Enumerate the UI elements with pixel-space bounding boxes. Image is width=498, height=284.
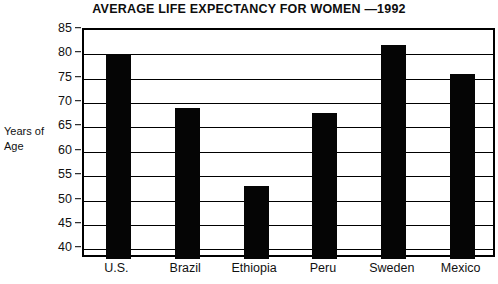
y-axis-tick-mark: [75, 149, 81, 150]
bar-series: [84, 30, 493, 255]
y-axis-tick-label: 60: [58, 144, 72, 157]
x-axis-category-label: Sweden: [369, 261, 414, 275]
y-axis-tick-mark: [75, 198, 81, 199]
plot-area: [82, 28, 495, 257]
y-axis-tick-mark: [75, 173, 81, 174]
life-expectancy-bar-chart: AVERAGE LIFE EXPECTANCY FOR WOMEN —1992 …: [0, 0, 498, 284]
y-axis-tick-mark: [75, 76, 81, 77]
bar: [106, 54, 131, 259]
y-axis-tick-labels: 85807570656055504540: [0, 0, 82, 284]
bar: [312, 113, 337, 259]
y-axis-tick-mark: [75, 52, 81, 53]
bar: [244, 186, 269, 259]
x-axis-category-label: U.S.: [104, 261, 128, 275]
y-axis-tick-label: 80: [58, 46, 72, 59]
y-axis-tick-mark: [75, 222, 81, 223]
x-axis-category-label: Mexico: [441, 261, 481, 275]
bar: [175, 108, 200, 259]
y-axis-tick-label: 50: [58, 192, 72, 205]
x-axis-category-label: Peru: [310, 261, 336, 275]
y-axis-tick-label: 75: [58, 70, 72, 83]
y-axis-tick-label: 55: [58, 168, 72, 181]
x-axis-category-labels: U.S.BrazilEthiopiaPeruSwedenMexico: [0, 259, 498, 284]
y-axis-tick-label: 85: [58, 22, 72, 35]
x-axis-category-label: Brazil: [170, 261, 201, 275]
bar: [450, 74, 475, 259]
x-axis-category-label: Ethiopia: [231, 261, 276, 275]
y-axis-tick-mark: [75, 246, 81, 247]
y-axis-tick-label: 40: [58, 241, 72, 254]
bar: [381, 45, 406, 259]
y-axis-tick-label: 70: [58, 95, 72, 108]
y-axis-tick-label: 45: [58, 217, 72, 230]
y-axis-tick-mark: [75, 27, 81, 28]
y-axis-tick-mark: [75, 125, 81, 126]
y-axis-tick-mark: [75, 100, 81, 101]
y-axis-tick-label: 65: [58, 119, 72, 132]
